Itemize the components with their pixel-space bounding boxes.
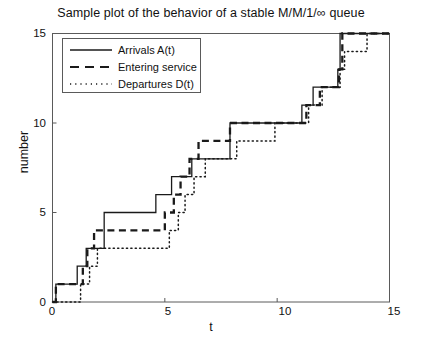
legend-item-arrivals: Arrivals A(t) [63,41,202,58]
legend-label-entering-service: Entering service [118,61,197,73]
legend-item-entering-service: Entering service [63,58,202,75]
legend-item-departures: Departures D(t) [63,75,202,92]
legend-swatch-solid-icon [68,43,114,57]
chart-legend: Arrivals A(t) Entering service Departure… [62,38,201,93]
chart-figure: Sample plot of the behavior of a stable … [0,0,422,344]
legend-label-departures: Departures D(t) [118,78,194,90]
legend-swatch-dashed-icon [68,60,114,74]
legend-swatch-dotted-icon [68,77,114,91]
legend-label-arrivals: Arrivals A(t) [118,44,175,56]
